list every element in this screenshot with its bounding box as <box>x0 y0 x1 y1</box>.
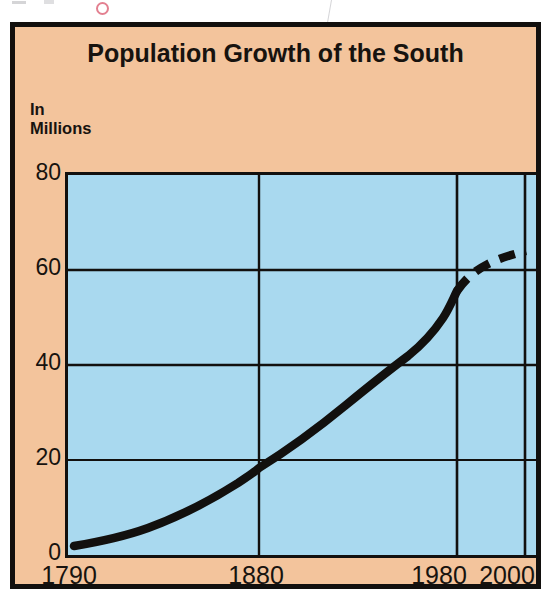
horizontal-gridlines <box>68 270 536 460</box>
y-axis-unit-label: In Millions <box>30 100 91 138</box>
x-tick-label-1790: 1790 <box>41 561 97 590</box>
population-line-actual <box>74 291 457 546</box>
y-tick-label-40: 40 <box>17 349 61 376</box>
x-tick-label-1880: 1880 <box>228 561 284 590</box>
chart-title: Population Growth of the South <box>15 39 536 68</box>
x-axis-tick-labels: 1790 1880 1980 2000 <box>15 561 536 595</box>
plot-svg <box>68 175 536 555</box>
y-tick-label-80: 80 <box>17 159 61 186</box>
chart-figure: Population Growth of the South In Millio… <box>0 0 551 611</box>
x-tick-label-1980: 1980 <box>411 561 467 590</box>
x-tick-label-2000: 2000 <box>479 561 535 590</box>
y-tick-label-60: 60 <box>17 254 61 281</box>
scan-artifact-streak <box>327 0 332 23</box>
scan-artifact-mark <box>12 1 26 4</box>
scan-artifact-mark <box>44 0 54 4</box>
scan-artifact-red-circle <box>96 2 109 15</box>
y-axis-tick-labels: 80 60 40 20 0 <box>15 172 61 552</box>
plot-area <box>65 172 539 558</box>
chart-panel: Population Growth of the South In Millio… <box>10 22 541 589</box>
y-tick-label-20: 20 <box>17 444 61 471</box>
